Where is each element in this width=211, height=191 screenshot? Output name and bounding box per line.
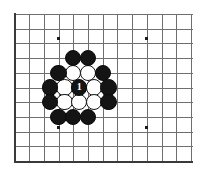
stone-black [80, 109, 96, 125]
go-diagram-root: 1 [0, 0, 211, 191]
grid-line-horizontal [15, 117, 193, 118]
board-edge-left [14, 13, 16, 163]
grid-line-vertical [117, 14, 118, 163]
grid-line-horizontal [15, 14, 193, 15]
grid-line-vertical [162, 14, 163, 163]
stone-marked: 1 [71, 79, 87, 95]
board-edge-bottom [14, 161, 193, 163]
grid-line-vertical [176, 14, 177, 163]
stone-black [50, 65, 66, 81]
move-number-label: 1 [72, 80, 86, 94]
grid-line-horizontal [15, 132, 193, 133]
grid-line-vertical [132, 14, 133, 163]
stone-black [80, 50, 96, 66]
stone-white [71, 94, 87, 110]
grid-line-horizontal [15, 58, 193, 59]
go-board: 1 [0, 0, 211, 191]
grid-line-vertical [191, 14, 192, 163]
grid-line-vertical [29, 14, 30, 163]
stone-black [42, 94, 58, 110]
stone-black [100, 94, 116, 110]
star-point [145, 126, 148, 129]
star-point [57, 126, 60, 129]
star-point [145, 37, 148, 40]
star-point [57, 37, 60, 40]
grid-line-horizontal [15, 43, 193, 44]
grid-line-horizontal [15, 146, 193, 147]
grid-line-horizontal [15, 29, 193, 30]
